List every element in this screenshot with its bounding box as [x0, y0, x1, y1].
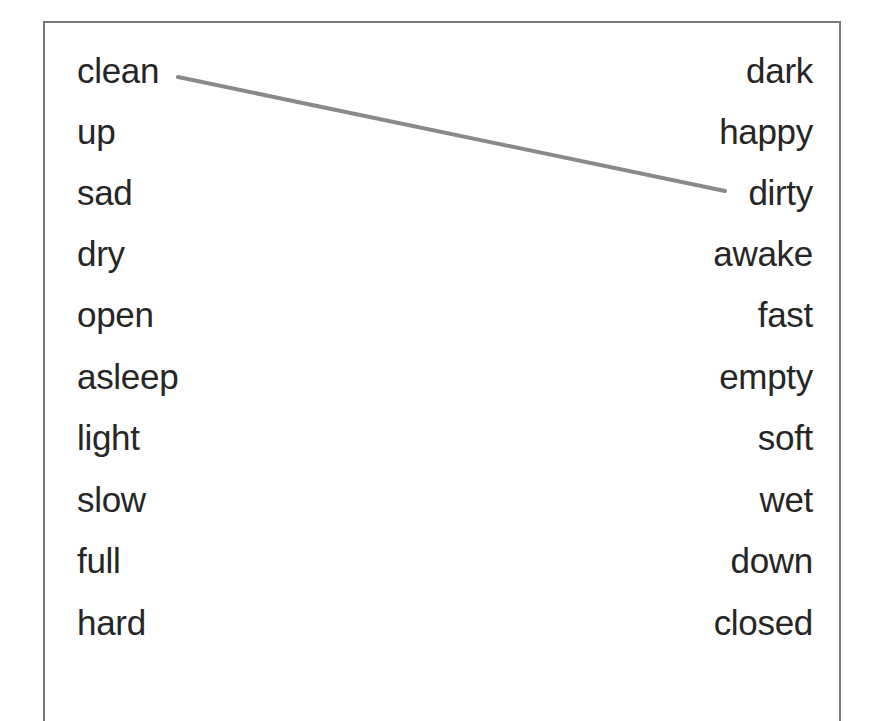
- right-word[interactable]: dirty: [748, 175, 813, 210]
- right-word[interactable]: fast: [758, 297, 813, 332]
- right-word[interactable]: empty: [719, 359, 813, 394]
- right-word[interactable]: soft: [758, 420, 813, 455]
- left-word[interactable]: full: [77, 543, 121, 578]
- left-word[interactable]: light: [77, 420, 140, 455]
- left-word[interactable]: up: [77, 114, 115, 149]
- left-word[interactable]: clean: [77, 53, 159, 88]
- left-word[interactable]: dry: [77, 236, 125, 271]
- right-word[interactable]: awake: [713, 236, 813, 271]
- right-word[interactable]: closed: [714, 605, 813, 640]
- right-word[interactable]: dark: [746, 53, 813, 88]
- right-word[interactable]: down: [731, 543, 813, 578]
- left-word[interactable]: sad: [77, 175, 133, 210]
- left-word[interactable]: hard: [77, 605, 146, 640]
- left-word[interactable]: slow: [77, 482, 146, 517]
- right-word[interactable]: happy: [719, 114, 813, 149]
- left-word[interactable]: asleep: [77, 359, 178, 394]
- left-word[interactable]: open: [77, 297, 154, 332]
- right-word[interactable]: wet: [759, 482, 813, 517]
